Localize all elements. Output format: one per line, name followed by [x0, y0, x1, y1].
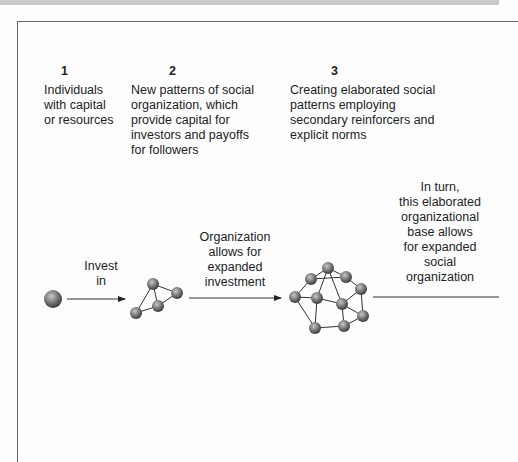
large-network-icon: [289, 262, 369, 334]
small-network-icon: [130, 278, 183, 319]
individual-node-icon: [44, 290, 62, 308]
